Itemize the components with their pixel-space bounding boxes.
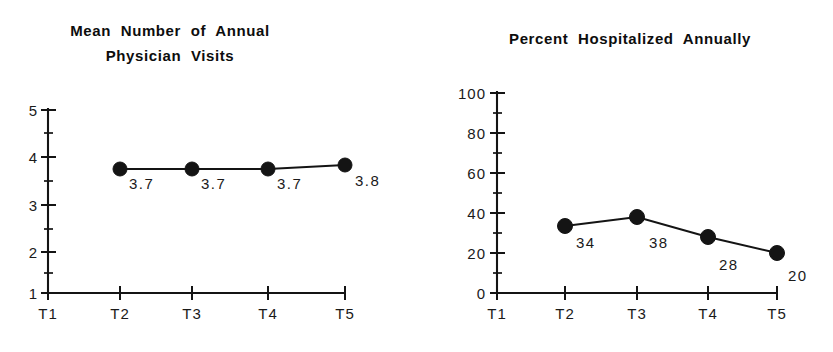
- data-point-t2: [558, 219, 573, 234]
- x-tick-label-t2: T2: [555, 305, 575, 322]
- data-label-t2: 34: [576, 234, 596, 251]
- x-tick-label-t3: T3: [627, 305, 647, 322]
- data-label-t3: 3.7: [201, 175, 226, 192]
- y-tick-label-100: 100: [458, 85, 486, 102]
- data-point-t4: [261, 162, 275, 176]
- y-tick-label-80: 80: [467, 125, 486, 142]
- figure-two-line-charts: Mean Number of Annual Physician Visits 5…: [0, 0, 833, 352]
- data-label-t5: 3.8: [355, 172, 380, 189]
- data-point-t2: [113, 162, 127, 176]
- data-label-t4: 28: [719, 256, 739, 273]
- data-label-t4: 3.7: [277, 175, 302, 192]
- series-line-physician-visits: [120, 165, 345, 169]
- y-tick-label-0: 0: [477, 285, 486, 302]
- chart-panel-physician-visits: Mean Number of Annual Physician Visits 5…: [0, 0, 420, 352]
- data-label-t2: 3.7: [129, 175, 154, 192]
- plot-area-percent-hospitalized: 100 80 60 40 20 0 T1 T2 T3 T4 T5: [420, 0, 833, 352]
- y-tick-label-1: 1: [29, 285, 38, 302]
- data-point-t3: [185, 162, 199, 176]
- y-tick-label-20: 20: [467, 245, 486, 262]
- data-point-t5: [338, 158, 352, 172]
- data-point-t3: [630, 210, 645, 225]
- y-tick-label-4: 4: [29, 149, 38, 166]
- x-tick-label-t2: T2: [110, 305, 130, 322]
- y-tick-label-3: 3: [29, 197, 38, 214]
- data-label-t5: 20: [788, 267, 808, 284]
- y-tick-label-2: 2: [29, 244, 38, 261]
- x-tick-label-t1: T1: [38, 305, 58, 322]
- x-tick-label-t5: T5: [767, 305, 787, 322]
- data-point-t4: [701, 230, 716, 245]
- x-tick-label-t4: T4: [258, 305, 278, 322]
- y-tick-label-60: 60: [467, 165, 486, 182]
- data-point-t5: [770, 246, 785, 261]
- y-tick-label-40: 40: [467, 205, 486, 222]
- data-label-t3: 38: [649, 234, 669, 251]
- y-tick-label-5: 5: [29, 102, 38, 119]
- chart-panel-percent-hospitalized: Percent Hospitalized Annually 100 80 60: [420, 0, 833, 352]
- x-tick-label-t5: T5: [335, 305, 355, 322]
- x-tick-label-t3: T3: [182, 305, 202, 322]
- x-tick-label-t1: T1: [487, 305, 507, 322]
- plot-area-physician-visits: 5 4 3 2 1 T1 T2 T3 T4 T5 3.7: [0, 0, 420, 352]
- series-line-percent-hospitalized: [565, 217, 777, 253]
- x-tick-label-t4: T4: [698, 305, 718, 322]
